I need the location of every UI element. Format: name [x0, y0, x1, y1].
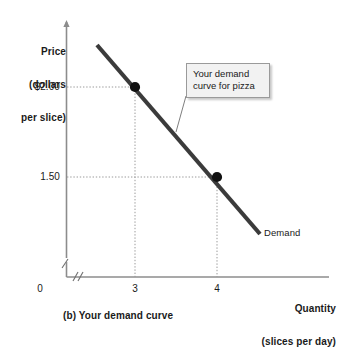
x-axis-title-line1: Quantity: [243, 303, 336, 314]
callout-line2: curve for pizza: [193, 80, 264, 92]
callout-line1: Your demand: [193, 68, 264, 80]
x-axis-title: Quantity (slices per day): [243, 281, 336, 351]
y-tick-label-150: 1.50: [18, 171, 60, 182]
y-axis-title-line1: Price: [6, 46, 66, 57]
demand-curve-label: Demand: [264, 227, 301, 238]
panel-caption: (b) Your demand curve: [63, 310, 173, 321]
origin-label: 0: [33, 283, 47, 294]
data-point-4-150: [212, 172, 222, 182]
callout-annotation: Your demand curve for pizza: [186, 63, 270, 98]
x-axis-title-line2: (slices per day): [243, 336, 336, 347]
y-tick-label-200: $2.00: [18, 81, 60, 92]
x-tick-label-4: 4: [207, 283, 227, 294]
x-tick-label-3: 3: [125, 283, 145, 294]
callout-leader-line: [176, 96, 186, 132]
y-axis-title-line3: per slice): [6, 112, 66, 123]
data-point-3-200: [130, 82, 140, 92]
